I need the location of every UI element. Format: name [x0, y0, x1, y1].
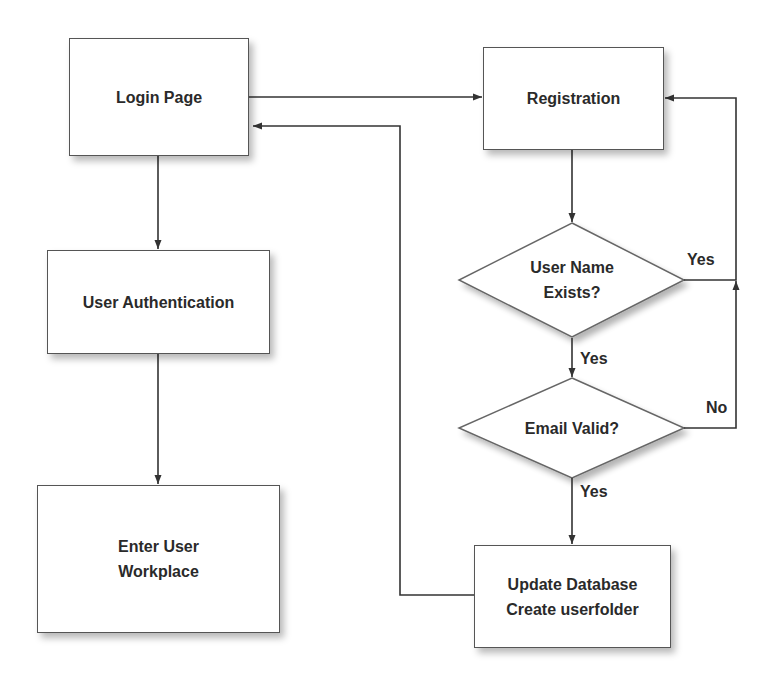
node-label: Login Page: [116, 85, 202, 110]
node-label-line2: Create userfolder: [506, 597, 639, 622]
edge-label-email-no: No: [706, 399, 727, 417]
decision-email-valid-label: Email Valid?: [492, 416, 652, 441]
node-label: User Authentication: [83, 290, 234, 315]
node-user-authentication: User Authentication: [47, 250, 270, 354]
node-login-page: Login Page: [69, 38, 249, 156]
node-label-line2: Workplace: [118, 559, 199, 584]
node-registration: Registration: [483, 47, 664, 150]
decision-label-line1: User Name: [502, 255, 642, 280]
edge-label-email-yes: Yes: [580, 483, 608, 501]
edge-label-username-yes-right: Yes: [687, 251, 715, 269]
node-label-line1: Enter User: [118, 534, 199, 559]
arrow-update-back-to-login: [253, 126, 474, 595]
node-label-line1: Update Database: [506, 572, 639, 597]
decision-label: Email Valid?: [492, 416, 652, 441]
flowchart-canvas: Login Page Registration User Authenticat…: [0, 0, 773, 689]
node-label: Registration: [527, 86, 620, 111]
node-enter-user-workplace: Enter User Workplace: [37, 485, 280, 633]
decision-label-line2: Exists?: [502, 280, 642, 305]
node-update-database: Update Database Create userfolder: [474, 545, 671, 648]
edge-label-username-yes-down: Yes: [580, 350, 608, 368]
decision-username-exists-label: User Name Exists?: [502, 255, 642, 305]
